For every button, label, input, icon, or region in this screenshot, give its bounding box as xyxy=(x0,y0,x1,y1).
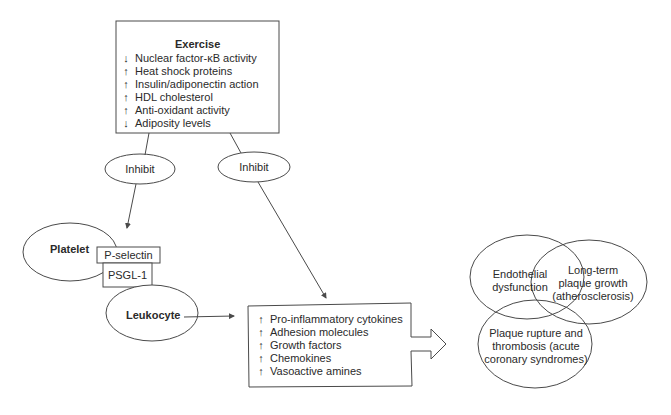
exercise-item: ↑Heat shock proteins xyxy=(121,65,259,78)
mediators-list: ↑Pro-inflammatory cytokines ↑Adhesion mo… xyxy=(256,313,403,378)
up-arrow-icon: ↑ xyxy=(256,326,266,339)
exercise-effects-list: ↓Nuclear factor-κB activity ↑Heat shock … xyxy=(121,52,259,130)
leukocyte-label: Leukocyte xyxy=(126,309,180,322)
bullet-icon: ↑ xyxy=(121,91,131,104)
bullet-icon: ↑ xyxy=(121,104,131,117)
mediator-item: ↑Pro-inflammatory cytokines xyxy=(256,313,403,326)
mediator-item: ↑Chemokines xyxy=(256,352,403,365)
mediator-item: ↑Vasoactive amines xyxy=(256,365,403,378)
bullet-icon: ↑ xyxy=(121,78,131,91)
exercise-item: ↓Adiposity levels xyxy=(121,117,259,130)
exercise-item: ↓Nuclear factor-κB activity xyxy=(121,52,259,65)
bullet-icon: ↓ xyxy=(121,117,131,130)
platelet-label: Platelet xyxy=(50,243,89,256)
up-arrow-icon: ↑ xyxy=(256,339,266,352)
bullet-icon: ↓ xyxy=(121,52,131,65)
exercise-title: Exercise xyxy=(175,38,220,51)
mediator-item: ↑Adhesion molecules xyxy=(256,326,403,339)
p-selectin-label: P-selectin xyxy=(97,249,160,262)
exercise-item: ↑Insulin/adiponectin action xyxy=(121,78,259,91)
arrow-inhibit-to-mediators xyxy=(258,182,326,298)
up-arrow-icon: ↑ xyxy=(256,365,266,378)
plaque-growth-label: Long-term plaque growth (atherosclerosis… xyxy=(548,264,638,303)
arrow-inhibit-to-pselectin xyxy=(127,184,136,228)
plaque-rupture-label: Plaque rupture and thrombosis (acute cor… xyxy=(480,327,592,366)
bullet-icon: ↑ xyxy=(121,65,131,78)
exercise-item: ↑Anti-oxidant activity xyxy=(121,104,259,117)
psgl1-label: PSGL-1 xyxy=(103,269,152,282)
inhibit-right-label: Inhibit xyxy=(218,161,290,174)
mediator-item: ↑Growth factors xyxy=(256,339,403,352)
exercise-item: ↑HDL cholesterol xyxy=(121,91,259,104)
up-arrow-icon: ↑ xyxy=(256,313,266,326)
inhibit-left-label: Inhibit xyxy=(105,163,175,176)
connector-exercise-inhibit-left xyxy=(145,133,149,155)
connector-exercise-inhibit-right xyxy=(230,133,241,153)
up-arrow-icon: ↑ xyxy=(256,352,266,365)
